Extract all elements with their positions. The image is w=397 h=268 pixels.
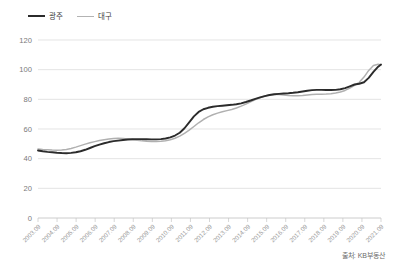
source-note: 출처: KB부동산 — [342, 250, 385, 260]
x-axis-tick-label: 2016.09 — [269, 222, 290, 243]
chart-container: 광주 대구 020406080100120 2003.092004.092005… — [0, 0, 397, 268]
x-axis-tick-label: 2004.09 — [40, 222, 61, 243]
x-axis-tick-label: 2019.09 — [326, 222, 347, 243]
x-axis-tick-label: 2005.09 — [59, 222, 80, 243]
x-axis-tick-labels: 2003.092004.092005.092006.092007.092008.… — [21, 222, 385, 243]
y-axis-tick-label: 20 — [24, 184, 32, 193]
y-axis-tick-labels: 020406080100120 — [19, 36, 32, 223]
x-axis-tick-label: 2017.09 — [288, 222, 309, 243]
x-axis-tick-label: 2003.09 — [21, 222, 42, 243]
data-series-group — [38, 64, 381, 153]
x-axis-tick-marks — [38, 218, 381, 222]
y-axis-tick-label: 60 — [24, 125, 32, 134]
y-axis-tick-label: 120 — [19, 36, 32, 45]
x-axis-tick-label: 2015.09 — [250, 222, 271, 243]
gridlines-group — [38, 40, 381, 218]
series-line-gwangju — [38, 64, 381, 153]
x-axis-tick-label: 2011.09 — [174, 222, 195, 243]
y-axis-tick-label: 80 — [24, 95, 32, 104]
chart-plot-area: 020406080100120 2003.092004.092005.09200… — [0, 0, 397, 268]
y-axis-tick-label: 40 — [24, 154, 32, 163]
x-axis-tick-label: 2020.09 — [345, 222, 366, 243]
x-axis-tick-label: 2014.09 — [231, 222, 252, 243]
x-axis-tick-label: 2010.09 — [154, 222, 175, 243]
x-axis-tick-label: 2018.09 — [307, 222, 328, 243]
x-axis-tick-label: 2006.09 — [78, 222, 99, 243]
y-axis-tick-label: 0 — [28, 214, 32, 223]
x-axis-tick-label: 2013.09 — [211, 222, 232, 243]
x-axis-tick-label: 2021.09 — [364, 222, 385, 243]
x-axis-tick-label: 2008.09 — [116, 222, 137, 243]
x-axis-tick-label: 2007.09 — [97, 222, 118, 243]
x-axis-tick-label: 2012.09 — [192, 222, 213, 243]
x-axis-tick-label: 2009.09 — [135, 222, 156, 243]
y-axis-tick-label: 100 — [19, 65, 32, 74]
